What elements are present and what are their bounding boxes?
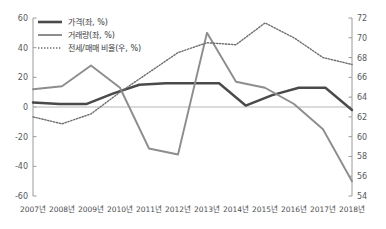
x-axis-tick-label: 2011년 bbox=[136, 204, 162, 214]
left-axis-tick-label: 60 bbox=[18, 14, 28, 23]
x-axis-tick-label: 2008년 bbox=[49, 204, 75, 214]
right-axis-tick-label: 68 bbox=[357, 54, 367, 63]
right-axis-tick-label: 70 bbox=[357, 34, 367, 43]
x-axis-tick-label: 2014년 bbox=[223, 204, 249, 214]
x-axis-tick-label: 2013년 bbox=[194, 204, 220, 214]
right-axis-tick-label: 60 bbox=[357, 133, 367, 142]
right-axis-tick-label: 56 bbox=[357, 172, 367, 181]
chart-container: 6040200-20-40-60 72706866646260585654 20… bbox=[0, 0, 386, 229]
x-axis-tick-label: 2010년 bbox=[107, 204, 133, 214]
x-axis-tick-label: 2017년 bbox=[310, 204, 336, 214]
left-axis-tick-label: -60 bbox=[15, 192, 28, 201]
x-axis-tick-label: 2009년 bbox=[78, 204, 104, 214]
x-axis-tick-label: 2016년 bbox=[281, 204, 307, 214]
left-axis-tick-label: 0 bbox=[23, 103, 28, 112]
left-axis-tick-label: -40 bbox=[15, 162, 28, 171]
x-axis-tick-label: 2012년 bbox=[165, 204, 191, 214]
left-axis-tick-label: 20 bbox=[18, 73, 28, 82]
legend-label: 전세/매매 비율(우, %) bbox=[68, 43, 141, 53]
chart-legend: 가격(좌, %)거래량(좌, %)전세/매매 비율(우, %) bbox=[38, 17, 141, 53]
left-axis-tick-label: 40 bbox=[18, 44, 28, 53]
x-axis-tick-label: 2007년 bbox=[20, 204, 46, 214]
right-axis-tick-label: 64 bbox=[357, 93, 367, 102]
x-axis: 2007년2008년2009년2010년2011년2012년2013년2014년… bbox=[20, 204, 365, 214]
right-axis-tick-label: 54 bbox=[357, 192, 367, 201]
right-axis-tick-label: 58 bbox=[357, 152, 367, 161]
legend-label: 가격(좌, %) bbox=[68, 17, 108, 27]
x-axis-tick-label: 2015년 bbox=[252, 204, 278, 214]
x-axis-tick-label: 2018년 bbox=[339, 204, 365, 214]
right-axis-tick-label: 62 bbox=[357, 113, 367, 122]
left-axis-tick-label: -20 bbox=[15, 133, 28, 142]
right-axis-tick-label: 72 bbox=[357, 14, 367, 23]
legend-label: 거래량(좌, %) bbox=[68, 30, 115, 40]
right-axis-tick-label: 66 bbox=[357, 73, 367, 82]
line-chart: 6040200-20-40-60 72706866646260585654 20… bbox=[0, 0, 386, 229]
